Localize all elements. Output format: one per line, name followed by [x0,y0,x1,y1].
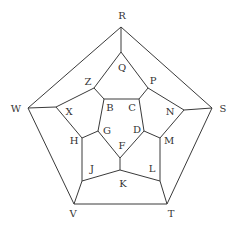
edge-Z-B [94,88,104,99]
edge-P-C [139,88,148,99]
vertex-label-J: J [90,164,94,174]
edge-R-S [121,27,212,108]
vertex-label-K: K [119,179,126,189]
edge-M-D [144,131,160,138]
edge-W-V [28,108,74,204]
vertex-label-G: G [103,126,111,136]
vertex-label-R: R [118,11,126,21]
vertex-label-H: H [70,136,79,146]
vertex-label-D: D [133,125,141,135]
vertex-label-B: B [106,103,113,113]
vertex-label-W: W [11,104,21,114]
vertex-label-L: L [149,164,156,174]
vertex-label-S: S [220,104,227,114]
edge-V-J [74,181,82,204]
vertex-label-Z: Z [85,77,92,87]
vertex-label-C: C [128,103,136,113]
vertex-label-P: P [150,76,157,86]
edge-J-K [82,170,120,181]
graph-edges [0,0,237,232]
edge-Z-X [56,88,94,107]
vertex-label-T: T [168,209,175,219]
vertex-label-N: N [166,107,175,117]
edge-R-W [28,27,121,108]
edge-T-L [160,181,167,204]
edge-S-N [184,108,212,110]
vertex-label-M: M [164,136,174,146]
edge-W-X [28,107,56,108]
edge-H-G [82,131,98,138]
vertex-label-Q: Q [118,63,126,73]
dodecahedron-diagram: RQZPWSXNBCGDHMFJLKVT [0,0,237,232]
vertex-label-V: V [69,209,76,219]
vertex-label-X: X [65,107,72,117]
vertex-label-F: F [119,141,126,151]
